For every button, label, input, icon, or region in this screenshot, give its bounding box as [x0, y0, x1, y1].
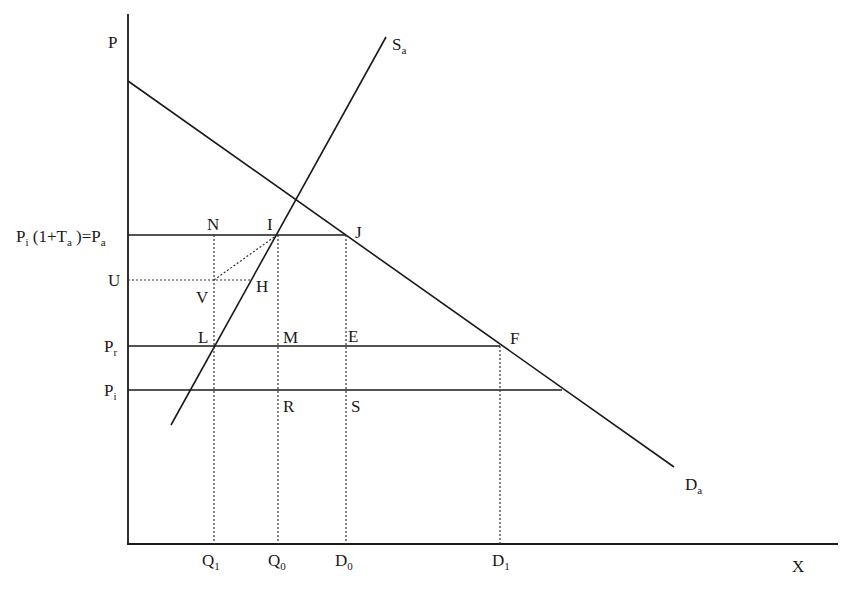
point-label-h: H — [256, 277, 268, 296]
price-label-pa: Pi (1+Ta )=Pa — [16, 227, 106, 248]
quantity-label-q1: Q1 — [202, 551, 220, 572]
point-label-m: M — [283, 328, 298, 347]
point-label-r: R — [283, 397, 295, 416]
tariff-supply-demand-diagram: P X Sa Da Pi (1+Ta )=Pa U Pr Pi Q1 Q0 D0… — [0, 0, 847, 609]
x-axis-label: X — [792, 557, 804, 576]
point-label-v: V — [196, 288, 209, 307]
point-label-j: J — [355, 223, 362, 242]
price-label-pi: Pi — [104, 381, 117, 402]
demand-curve — [128, 81, 674, 467]
point-label-i: I — [267, 215, 273, 234]
price-label-pr: Pr — [104, 337, 117, 358]
dotted-line-vi — [214, 235, 277, 280]
quantity-label-q0: Q0 — [268, 551, 286, 572]
point-label-e: E — [348, 327, 358, 346]
price-label-u: U — [108, 271, 120, 290]
quantity-label-d0: D0 — [335, 551, 353, 572]
point-label-l: L — [198, 328, 208, 347]
point-label-n: N — [207, 215, 219, 234]
point-label-f: F — [510, 329, 519, 348]
quantity-label-d1: D1 — [492, 551, 510, 572]
supply-curve — [171, 37, 386, 425]
point-label-s: S — [351, 397, 360, 416]
supply-curve-label: Sa — [392, 35, 406, 56]
y-axis-label: P — [108, 33, 117, 52]
demand-curve-label: Da — [685, 475, 702, 496]
